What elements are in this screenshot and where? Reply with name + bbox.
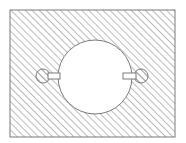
section-diagram [0, 0, 186, 143]
central-hole [58, 40, 132, 114]
